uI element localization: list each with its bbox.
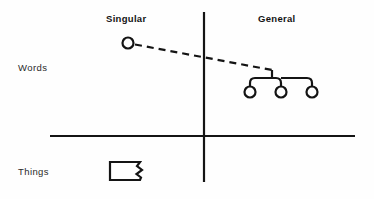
axis-label-words: Words xyxy=(18,62,47,73)
axis-label-singular: Singular xyxy=(106,13,146,24)
general-word-node-circle-3 xyxy=(307,87,318,98)
singular-thing-torn-rectangle xyxy=(110,162,142,180)
general-word-node-circle-2 xyxy=(276,87,287,98)
tree-branch-right xyxy=(281,78,312,87)
diagram-canvas xyxy=(0,0,374,199)
general-word-node-circle-1 xyxy=(245,87,256,98)
singular-word-node-circle xyxy=(123,38,134,49)
semiotic-quadrant-diagram: Words Things Singular General xyxy=(0,0,374,199)
axis-label-things: Things xyxy=(18,166,49,177)
axis-label-general: General xyxy=(258,13,295,24)
tree-branch-middle xyxy=(272,78,281,87)
tree-branch-left xyxy=(250,78,272,87)
